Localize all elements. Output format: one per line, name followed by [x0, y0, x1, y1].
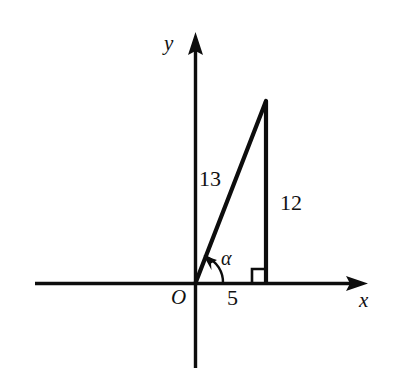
x-axis-label: x [359, 290, 368, 311]
geometry-figure: y x O 5 13 12 α [0, 0, 393, 392]
axes-group [35, 32, 368, 368]
origin-label: O [171, 287, 186, 308]
y-axis-label: y [164, 33, 173, 54]
horizontal-leg-length-label: 5 [227, 287, 238, 309]
vertical-leg-length-label: 12 [280, 192, 302, 214]
angle-alpha-label: α [221, 248, 232, 268]
hypotenuse-length-label: 13 [199, 168, 221, 190]
geometry-canvas [0, 0, 393, 392]
